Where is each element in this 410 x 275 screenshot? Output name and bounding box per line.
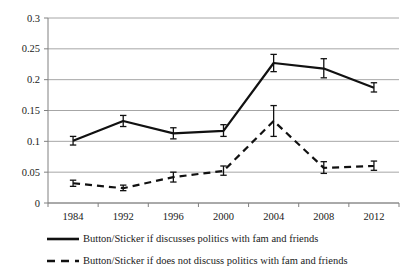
legend-label-discusses: Button/Sticker if discusses politics wit… bbox=[83, 233, 318, 245]
x-axis-tick-label: 2000 bbox=[213, 211, 234, 222]
y-axis-tick-label: 0.15 bbox=[22, 105, 40, 116]
x-axis-tick-label: 2004 bbox=[263, 211, 285, 222]
y-axis-tick-label: 0.25 bbox=[22, 43, 40, 54]
line-chart-plot: 00.050.10.150.20.250.3 19841992199620002… bbox=[0, 0, 410, 228]
x-axis-tick-label: 2008 bbox=[313, 211, 334, 222]
x-axis-tick-label: 2012 bbox=[363, 211, 384, 222]
series-error-bars bbox=[70, 54, 377, 190]
y-axis-tick-label: 0.3 bbox=[27, 13, 40, 24]
y-axis-tick-label: 0 bbox=[35, 198, 40, 209]
series-line-discusses bbox=[73, 63, 374, 141]
x-axis-tick-label: 1992 bbox=[113, 211, 134, 222]
legend-swatch-solid-line-icon bbox=[46, 233, 80, 245]
legend-label-does-not-discuss: Button/Sticker if does not discuss polit… bbox=[83, 255, 348, 267]
x-axis-tick-labels: 1984199219962000200420082012 bbox=[63, 211, 385, 222]
x-axis-tick-label: 1984 bbox=[63, 211, 85, 222]
legend-swatch-dashed-line-icon bbox=[46, 255, 80, 267]
x-axis-tick-label: 1996 bbox=[163, 211, 184, 222]
y-axis-tick-label: 0.1 bbox=[27, 136, 40, 147]
legend-item-discusses: Button/Sticker if discusses politics wit… bbox=[0, 228, 410, 250]
legend-item-does-not-discuss: Button/Sticker if does not discuss polit… bbox=[0, 250, 410, 272]
y-axis-tick-label: 0.05 bbox=[22, 167, 40, 178]
y-axis-tick-labels: 00.050.10.150.20.250.3 bbox=[22, 13, 40, 209]
y-axis-tick-label: 0.2 bbox=[27, 74, 40, 85]
x-axis bbox=[48, 203, 399, 207]
chart-figure: 00.050.10.150.20.250.3 19841992199620002… bbox=[0, 0, 410, 275]
chart-legend: Button/Sticker if discusses politics wit… bbox=[0, 228, 410, 275]
y-axis bbox=[44, 18, 48, 203]
